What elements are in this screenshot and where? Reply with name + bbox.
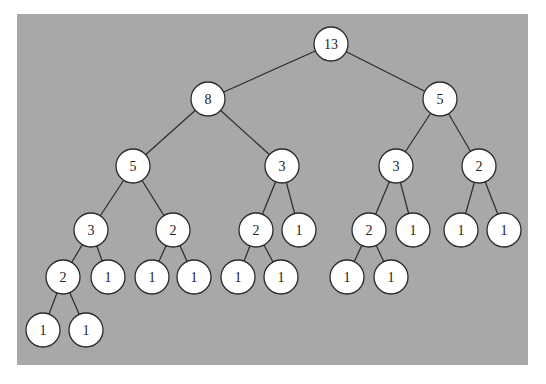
tree-node: 2 <box>46 260 80 294</box>
fibonacci-tree: 13855332322121112111111111 <box>0 0 546 384</box>
tree-node: 1 <box>135 260 169 294</box>
node-label: 2 <box>476 159 483 174</box>
node-label: 1 <box>191 270 198 285</box>
tree-node: 1 <box>26 313 60 347</box>
node-label: 1 <box>105 270 112 285</box>
tree-node: 2 <box>156 213 190 247</box>
node-label: 1 <box>235 270 242 285</box>
node-label: 1 <box>83 323 90 338</box>
node-label: 1 <box>344 270 351 285</box>
tree-node: 2 <box>239 213 273 247</box>
node-label: 3 <box>88 223 95 238</box>
node-label: 1 <box>149 270 156 285</box>
tree-node: 1 <box>396 213 430 247</box>
node-label: 1 <box>278 270 285 285</box>
node-label: 2 <box>366 223 373 238</box>
node-label: 1 <box>388 270 395 285</box>
tree-edge <box>208 44 331 99</box>
tree-node: 1 <box>177 260 211 294</box>
tree-node: 3 <box>379 149 413 183</box>
tree-node: 1 <box>69 313 103 347</box>
tree-edge <box>331 44 440 99</box>
node-label: 2 <box>60 270 67 285</box>
tree-node: 2 <box>352 213 386 247</box>
node-label: 5 <box>130 159 137 174</box>
node-label: 13 <box>324 37 338 52</box>
node-label: 1 <box>296 223 303 238</box>
tree-node: 8 <box>191 82 225 116</box>
node-label: 1 <box>410 223 417 238</box>
tree-node: 1 <box>264 260 298 294</box>
node-label: 3 <box>279 159 286 174</box>
node-label: 1 <box>501 223 508 238</box>
tree-node: 3 <box>265 149 299 183</box>
tree-node: 1 <box>374 260 408 294</box>
tree-node: 1 <box>282 213 316 247</box>
node-label: 3 <box>393 159 400 174</box>
tree-node: 3 <box>74 213 108 247</box>
node-label: 5 <box>437 92 444 107</box>
figure-caption <box>17 375 528 384</box>
tree-node: 1 <box>444 213 478 247</box>
tree-node: 5 <box>423 82 457 116</box>
tree-node: 1 <box>221 260 255 294</box>
tree-node: 5 <box>116 149 150 183</box>
node-label: 1 <box>458 223 465 238</box>
node-label: 2 <box>170 223 177 238</box>
tree-node: 2 <box>462 149 496 183</box>
node-label: 8 <box>205 92 212 107</box>
tree-node: 1 <box>91 260 125 294</box>
node-label: 2 <box>253 223 260 238</box>
tree-node: 1 <box>487 213 521 247</box>
tree-node: 13 <box>314 27 348 61</box>
tree-node: 1 <box>330 260 364 294</box>
node-label: 1 <box>40 323 47 338</box>
